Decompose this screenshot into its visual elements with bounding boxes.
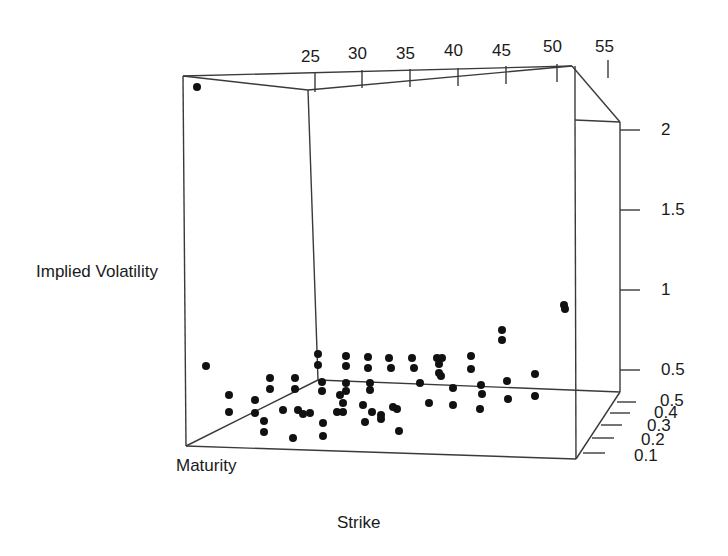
data-point xyxy=(193,83,201,91)
data-point xyxy=(377,415,385,423)
data-point xyxy=(318,387,326,395)
data-point xyxy=(438,354,446,362)
x-tick-label: 55 xyxy=(595,37,614,57)
data-point xyxy=(498,336,506,344)
data-point xyxy=(366,379,374,387)
z-tick-label: 1.5 xyxy=(661,200,685,220)
z-tick-label: 0.5 xyxy=(661,360,685,380)
x-tick-label: 50 xyxy=(543,37,562,57)
data-point xyxy=(425,399,433,407)
data-point xyxy=(478,390,486,398)
data-point xyxy=(342,352,350,360)
data-point xyxy=(531,370,539,378)
data-point xyxy=(251,409,259,417)
data-point xyxy=(368,408,376,416)
data-point xyxy=(476,405,484,413)
z-tick-label: 2 xyxy=(661,120,670,140)
data-point xyxy=(251,396,259,404)
data-point xyxy=(366,386,374,394)
bounding-box xyxy=(183,66,620,459)
data-point xyxy=(260,417,268,425)
x-tick-label: 25 xyxy=(301,47,320,67)
data-point xyxy=(385,354,393,362)
data-point xyxy=(266,385,274,393)
data-point xyxy=(395,427,403,435)
z-axis-ticks xyxy=(620,130,640,370)
data-point xyxy=(410,364,418,372)
data-point xyxy=(393,405,401,413)
data-point xyxy=(408,354,416,362)
data-point xyxy=(477,381,485,389)
data-point xyxy=(364,364,372,372)
data-point xyxy=(561,305,569,313)
y-tick-label: 0.1 xyxy=(634,446,658,466)
data-point xyxy=(364,353,372,361)
data-point xyxy=(319,432,327,440)
data-point xyxy=(467,352,475,360)
data-point xyxy=(387,364,395,372)
x-tick-label: 30 xyxy=(348,44,367,64)
x-tick-label: 45 xyxy=(492,41,511,61)
data-point xyxy=(437,372,445,380)
data-point xyxy=(260,428,268,436)
y-axis-label: Maturity xyxy=(176,456,236,476)
data-point xyxy=(449,401,457,409)
data-point xyxy=(289,434,297,442)
data-point xyxy=(291,385,299,393)
data-point xyxy=(531,392,539,400)
data-point xyxy=(503,377,511,385)
data-point xyxy=(416,379,424,387)
data-point xyxy=(266,374,274,382)
data-point xyxy=(279,406,287,414)
data-point xyxy=(299,410,307,418)
data-point xyxy=(202,362,210,370)
data-point xyxy=(314,350,322,358)
data-point xyxy=(342,387,350,395)
z-tick-label: 1 xyxy=(661,280,670,300)
data-point xyxy=(225,408,233,416)
data-point xyxy=(319,419,327,427)
data-point xyxy=(306,409,314,417)
x-tick-label: 35 xyxy=(396,44,415,64)
data-point xyxy=(339,408,347,416)
data-point xyxy=(359,401,367,409)
data-point xyxy=(504,395,512,403)
data-point xyxy=(314,361,322,369)
data-point xyxy=(342,362,350,370)
data-point xyxy=(498,326,506,334)
x-tick-label: 40 xyxy=(444,41,463,61)
data-point xyxy=(225,391,233,399)
data-point xyxy=(449,384,457,392)
y-axis-ticks xyxy=(583,402,636,453)
z-axis-label: Implied Volatility xyxy=(36,262,158,282)
data-point xyxy=(361,418,369,426)
data-point xyxy=(339,399,347,407)
data-point xyxy=(318,378,326,386)
x-axis-label: Strike xyxy=(337,513,380,533)
data-point xyxy=(467,365,475,373)
data-point xyxy=(291,374,299,382)
data-point xyxy=(342,379,350,387)
